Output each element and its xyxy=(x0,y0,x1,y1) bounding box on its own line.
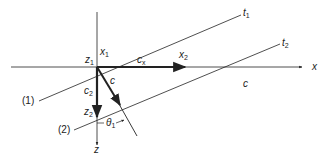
label-c2: c2 xyxy=(84,85,93,97)
label-x1: x1 xyxy=(99,46,109,58)
label-z1: z1 xyxy=(84,54,94,66)
c-arrow xyxy=(97,67,120,105)
ray-continuation xyxy=(119,104,137,136)
label-z2: z2 xyxy=(83,106,93,118)
label-line2: (2) xyxy=(58,124,70,135)
label-c-medium: c xyxy=(243,78,248,89)
label-theta1: θ1 xyxy=(106,117,115,129)
label-c-arrow: c xyxy=(110,75,115,86)
label-line1: (1) xyxy=(22,95,34,106)
wavefront-diagram: x1 z1 cx x2 c c2 z2 θ1 t1 t2 x z c (1) (… xyxy=(0,0,329,154)
theta1-arrow xyxy=(116,120,124,123)
label-x-axis: x xyxy=(311,61,318,72)
label-t1: t1 xyxy=(243,7,250,19)
label-t2: t2 xyxy=(282,37,289,49)
label-x2: x2 xyxy=(178,49,188,61)
label-z-axis: z xyxy=(93,144,99,154)
